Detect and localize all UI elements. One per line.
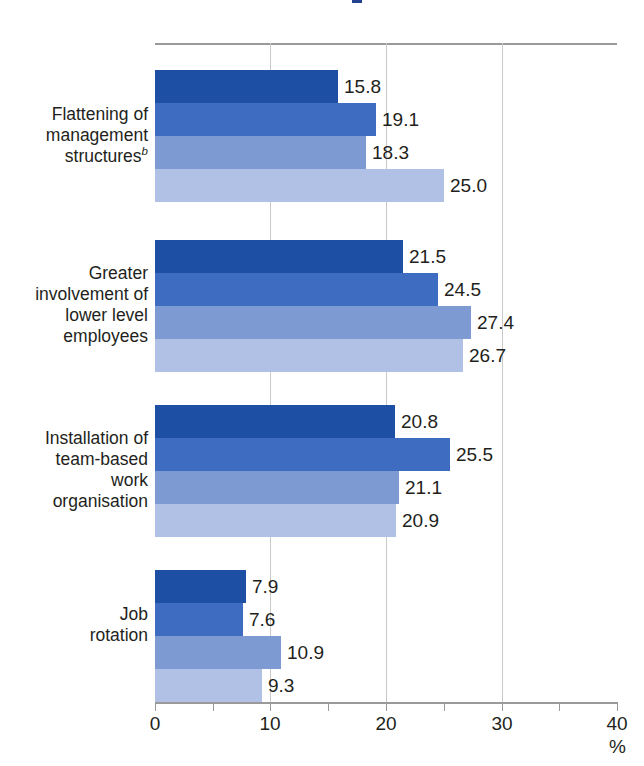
category-line: lower level <box>35 305 148 326</box>
bar-g0-s2 <box>155 103 376 136</box>
bar-value-g2-s2: 25.5 <box>456 444 493 466</box>
category-line: organisation <box>45 491 148 512</box>
bar-value-g1-s1: 21.5 <box>409 246 446 268</box>
tick-10 <box>270 702 271 711</box>
grouped-bar-chart: 0 10 20 30 40 % Flattening of management… <box>0 0 644 766</box>
bar-value-g2-s1: 20.8 <box>401 411 438 433</box>
category-line-text: structures <box>65 146 142 166</box>
tick-40 <box>617 702 618 711</box>
bar-value-g1-s4: 26.7 <box>469 345 506 367</box>
bar-value-g3-s2: 7.6 <box>249 609 275 631</box>
bar-g0-s4 <box>155 169 444 202</box>
bar-g3-s2 <box>155 603 243 636</box>
bar-value-g1-s3: 27.4 <box>477 312 514 334</box>
tick-35 <box>559 702 560 711</box>
bar-value-g2-s3: 21.1 <box>405 477 442 499</box>
bar-g0-s3 <box>155 136 366 169</box>
tick-label-20: 20 <box>371 713 401 735</box>
category-line: Installation of <box>45 428 148 449</box>
bar-g1-s4 <box>155 339 463 372</box>
tick-15 <box>328 702 329 711</box>
bar-g2-s1 <box>155 405 395 438</box>
gridline-30 <box>502 43 503 702</box>
bar-g3-s4 <box>155 669 262 702</box>
tick-0 <box>155 702 156 711</box>
bar-value-g0-s3: 18.3 <box>372 142 409 164</box>
footnote-marker: b <box>142 145 148 157</box>
bar-value-g3-s1: 7.9 <box>252 576 278 598</box>
bar-value-g3-s3: 10.9 <box>287 642 324 664</box>
bar-g1-s3 <box>155 306 471 339</box>
bar-g1-s2 <box>155 273 438 306</box>
bar-g3-s3 <box>155 636 281 669</box>
tick-label-30: 30 <box>487 713 517 735</box>
tick-label-40: 40 <box>602 713 632 735</box>
category-line-with-footnote: structuresb <box>46 146 148 167</box>
bar-g2-s2 <box>155 438 450 471</box>
category-line: rotation <box>90 625 148 646</box>
tick-25 <box>444 702 445 711</box>
bar-g1-s1 <box>155 240 403 273</box>
tick-label-0: 0 <box>145 713 165 735</box>
category-line: involvement of <box>35 284 148 305</box>
bar-g2-s3 <box>155 471 399 504</box>
bar-g3-s1 <box>155 570 246 603</box>
category-label-greater-involvement-of-lower-level-employees: Greater involvement of lower level emplo… <box>35 263 148 347</box>
bar-g2-s4 <box>155 504 396 537</box>
bar-value-g2-s4: 20.9 <box>402 510 439 532</box>
bar-value-g3-s4: 9.3 <box>268 675 294 697</box>
bar-g0-s1 <box>155 70 338 103</box>
category-line: employees <box>35 326 148 347</box>
tick-label-10: 10 <box>255 713 285 735</box>
category-line: Flattening of <box>46 104 148 125</box>
category-label-installation-of-team-based-work-organisation: Installation of team-based work organisa… <box>45 428 148 512</box>
category-line: work <box>45 470 148 491</box>
x-axis-unit-label: % <box>609 736 626 758</box>
category-label-job-rotation: Job rotation <box>90 604 148 646</box>
category-label-flattening-of-management-structures: Flattening of management structuresb <box>46 104 148 167</box>
bar-value-g0-s1: 15.8 <box>344 76 381 98</box>
tick-5 <box>213 702 214 711</box>
bar-value-g0-s4: 25.0 <box>450 175 487 197</box>
tick-20 <box>386 702 387 711</box>
bar-value-g0-s2: 19.1 <box>382 109 419 131</box>
category-line: team-based <box>45 449 148 470</box>
tick-30 <box>502 702 503 711</box>
bar-value-g1-s2: 24.5 <box>444 279 481 301</box>
category-line: Job <box>90 604 148 625</box>
category-line: management <box>46 125 148 146</box>
category-line: Greater <box>35 263 148 284</box>
